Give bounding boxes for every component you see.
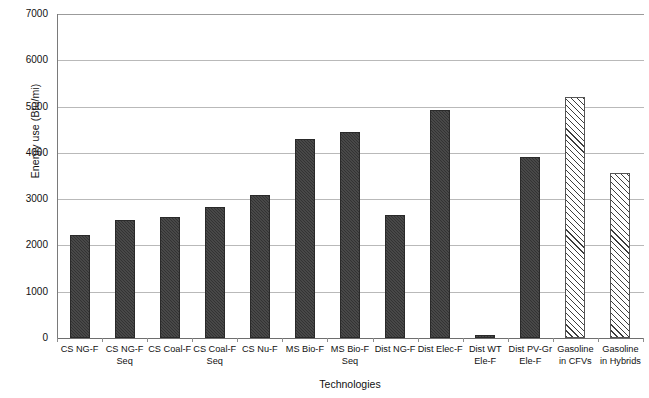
x-axis-tick-label-line2: Seq: [189, 356, 240, 368]
x-axis-tick-label-line1: CS Coal-F: [193, 344, 236, 354]
x-axis-tick: [418, 338, 419, 342]
y-axis-tick-label: 7000: [0, 9, 48, 19]
x-axis-tick-label-line1: Dist NG-F: [375, 344, 416, 354]
x-axis-tick-label-line1: MS Bio-F: [331, 344, 369, 354]
y-axis-tick-label: 1000: [0, 287, 48, 297]
x-axis-tick: [598, 338, 599, 342]
bar: [520, 157, 540, 338]
x-axis-tick: [508, 338, 509, 342]
x-axis-tick-label: Dist Elec-F: [415, 344, 466, 356]
bars-layer: [57, 14, 643, 338]
bar: [565, 97, 585, 338]
x-axis-tick-label: CS Coal-FSeq: [189, 344, 240, 367]
x-axis-tick-label-line1: Dist PV-Gr: [509, 344, 552, 354]
x-axis-tick-label: Dist PV-GrEle-F: [505, 344, 556, 367]
x-axis-tick-label-line1: CS Coal-F: [148, 344, 191, 354]
x-axis-tick: [237, 338, 238, 342]
x-axis-tick-label: Gasolinein CFVs: [550, 344, 601, 367]
x-axis-tick-label-line1: CS Nu-F: [242, 344, 278, 354]
x-axis-tick: [553, 338, 554, 342]
x-axis-tick-label: Dist WTEle-F: [460, 344, 511, 367]
x-axis-tick-label-line1: CS NG-F: [61, 344, 99, 354]
x-axis-tick-label-line2: Seq: [324, 356, 375, 368]
x-axis-tick-labels: CS NG-FCS NG-FSeqCS Coal-FCS Coal-FSeqCS…: [57, 344, 643, 378]
x-axis-tick-label-line2: in Hybrids: [595, 356, 646, 368]
x-axis-tick: [282, 338, 283, 342]
x-axis-tick: [102, 338, 103, 342]
x-axis-tick-label: Dist NG-F: [370, 344, 421, 356]
y-axis-tick-labels: 70006000500040003000200010000: [0, 0, 52, 398]
x-axis-tick: [643, 338, 644, 342]
y-axis-tick-label: 0: [0, 333, 48, 343]
x-axis-tick-label: MS Bio-F: [279, 344, 330, 356]
x-axis-tick-label-line2: Seq: [99, 356, 150, 368]
x-axis-tick-label-line1: Gasoline: [602, 344, 638, 354]
x-axis-tick-label: Gasolinein Hybrids: [595, 344, 646, 367]
y-axis-tick-label: 2000: [0, 240, 48, 250]
bar: [430, 110, 450, 338]
x-axis-tick: [463, 338, 464, 342]
x-axis-tick: [327, 338, 328, 342]
bar: [115, 220, 135, 338]
x-axis-tick-label: CS NG-FSeq: [99, 344, 150, 367]
bar: [385, 215, 405, 338]
bar: [160, 217, 180, 338]
x-axis-tick-label-line2: Ele-F: [505, 356, 556, 368]
y-axis-tick-label: 3000: [0, 194, 48, 204]
x-axis-tick-label-line2: Ele-F: [460, 356, 511, 368]
x-axis-tick-label-line1: Gasoline: [557, 344, 593, 354]
bar: [70, 235, 90, 338]
x-axis-tick: [192, 338, 193, 342]
bar: [205, 207, 225, 338]
y-axis-tick-label: 4000: [0, 148, 48, 158]
bar-chart: Energy use (Btu/mi) 70006000500040003000…: [0, 0, 649, 398]
x-axis-tick-label-line1: CS NG-F: [106, 344, 144, 354]
bar: [340, 132, 360, 338]
x-axis-tick: [57, 338, 58, 342]
bar: [475, 335, 495, 338]
bar: [250, 195, 270, 338]
x-axis-ticks: [57, 338, 643, 343]
y-axis-tick-label: 5000: [0, 102, 48, 112]
x-axis-title: Technologies: [57, 378, 643, 390]
x-axis-tick-label-line1: MS Bio-F: [286, 344, 324, 354]
x-axis-tick: [147, 338, 148, 342]
x-axis-tick-label: CS NG-F: [54, 344, 105, 356]
bar: [295, 139, 315, 338]
bar: [610, 173, 630, 338]
x-axis-tick-label-line2: in CFVs: [550, 356, 601, 368]
x-axis-tick: [373, 338, 374, 342]
y-axis-tick-label: 6000: [0, 55, 48, 65]
x-axis-tick-label-line1: Dist Elec-F: [418, 344, 463, 354]
x-axis-tick-label: MS Bio-FSeq: [324, 344, 375, 367]
x-axis-tick-label-line1: Dist WT: [469, 344, 502, 354]
x-axis-tick-label: CS Coal-F: [144, 344, 195, 356]
x-axis-tick-label: CS Nu-F: [234, 344, 285, 356]
